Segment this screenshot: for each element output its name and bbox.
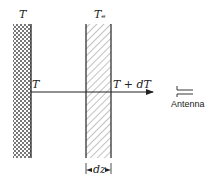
diagram-canvas: T Tₑ T T + dT Antenna dz [0, 0, 213, 185]
right-slab-temp-label: Tₑ [94, 8, 106, 21]
antenna-icon [177, 86, 193, 97]
antenna-label: Antenna [171, 99, 205, 109]
blackbody-slab [13, 24, 31, 158]
ray-end-label: T + dT [113, 78, 153, 91]
ray-start-label: T [32, 78, 41, 91]
left-slab-temp-label: T [19, 8, 28, 21]
thickness-label: dz [93, 163, 106, 176]
absorbing-layer [86, 24, 111, 158]
